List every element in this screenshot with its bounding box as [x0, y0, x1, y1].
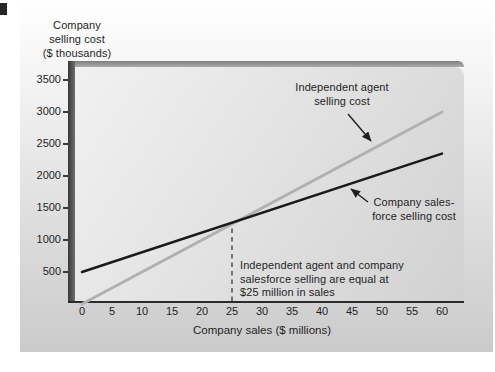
note-line: salesforce selling are equal at: [240, 273, 435, 287]
independent-agent-arrow: [348, 114, 371, 141]
company-salesforce-line-label: Company sales- force selling cost: [362, 195, 466, 223]
label-line: Company sales-: [362, 195, 466, 209]
label-line: Independent agent: [272, 80, 412, 94]
breakeven-note: Independent agent and company salesforce…: [240, 259, 435, 300]
x-axis-title: Company sales ($ millions): [132, 324, 392, 336]
figure-canvas: Company selling cost ($ thousands) 50010…: [0, 0, 495, 372]
label-line: selling cost: [272, 94, 412, 108]
chart-lines-layer: [0, 0, 495, 372]
note-line: Independent agent and company: [240, 259, 435, 273]
label-line: force selling cost: [362, 209, 466, 223]
note-line: $25 million in sales: [240, 286, 435, 300]
independent-agent-line-label: Independent agent selling cost: [272, 80, 412, 108]
